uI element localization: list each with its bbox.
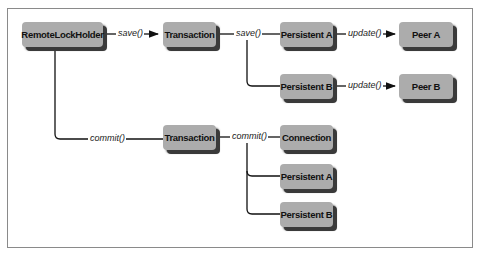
edge-label-commit-1: commit() <box>89 133 126 144</box>
node-connection: Connection <box>280 125 333 150</box>
node-remote-lock-holder: RemoteLockHolder <box>22 22 103 47</box>
edge-label-save-1: save() <box>117 28 144 39</box>
edge-label-save-2: save() <box>235 28 262 39</box>
node-persistent-a-bottom: Persistent A <box>280 164 333 189</box>
node-transaction-top: Transaction <box>163 22 216 47</box>
edge-label-commit-2: commit() <box>231 131 268 142</box>
node-persistent-b-top: Persistent B <box>280 74 333 99</box>
node-peer-a: Peer A <box>399 22 453 47</box>
node-transaction-bottom: Transaction <box>163 125 216 150</box>
node-persistent-b-bottom: Persistent B <box>280 202 333 227</box>
edge-label-update-b: update() <box>347 80 383 91</box>
edge-label-update-a: update() <box>347 28 383 39</box>
node-peer-b: Peer B <box>399 74 453 99</box>
node-persistent-a-top: Persistent A <box>280 22 333 47</box>
